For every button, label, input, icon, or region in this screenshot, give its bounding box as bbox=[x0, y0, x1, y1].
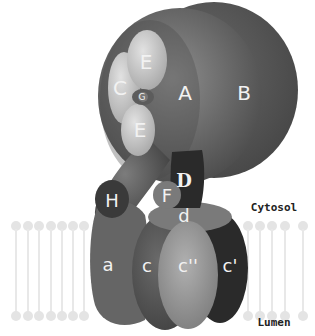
label-d: d bbox=[178, 207, 189, 225]
label-c: c bbox=[142, 257, 152, 275]
label-A: A bbox=[178, 83, 192, 103]
label-G: G bbox=[139, 93, 146, 102]
label-lumen: Lumen bbox=[257, 316, 290, 329]
label-c-prime: c' bbox=[223, 257, 238, 275]
label-H: H bbox=[105, 192, 119, 210]
v-atpase-diagram bbox=[0, 0, 315, 336]
label-cytosol: Cytosol bbox=[251, 201, 297, 214]
label-C: C bbox=[113, 78, 127, 98]
label-F: F bbox=[162, 187, 172, 205]
label-B: B bbox=[237, 83, 251, 103]
label-a: a bbox=[102, 256, 113, 274]
label-c-double-prime: c'' bbox=[178, 257, 198, 275]
label-E-bottom: E bbox=[134, 120, 147, 140]
label-E-top: E bbox=[140, 52, 153, 72]
label-D: D bbox=[176, 172, 192, 190]
